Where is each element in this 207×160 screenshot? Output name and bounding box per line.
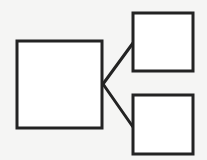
connector-root-to-child-bottom [103, 84, 133, 127]
connector-root-to-child-top [103, 43, 133, 84]
node-box-child-bottom [133, 95, 193, 154]
diagram-canvas [0, 0, 207, 160]
tree-diagram [0, 0, 207, 160]
node-box-root [17, 41, 102, 128]
node-box-child-top [133, 13, 193, 71]
edges-group [103, 43, 133, 127]
